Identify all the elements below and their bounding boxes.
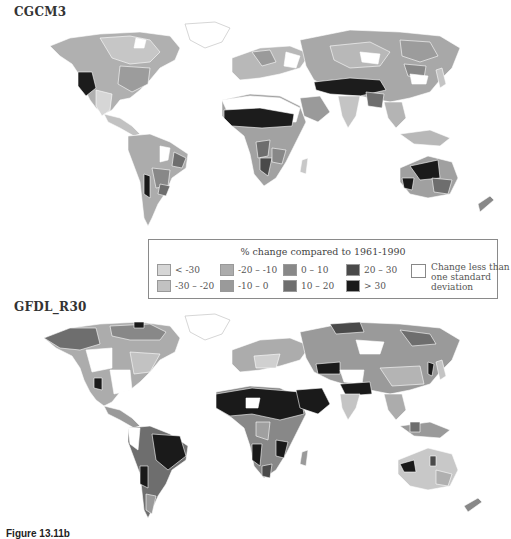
legend-label: 10 – 20 (301, 281, 334, 291)
map-title-cgcm3: CGCM3 (14, 5, 66, 19)
legend-box: % change compared to 1961-1990 < -30 -30… (148, 239, 498, 299)
legend-item-gt-30: > 30 (346, 280, 386, 292)
legend-item-0-10: 0 – 10 (283, 264, 328, 276)
legend-label: -30 – -20 (175, 281, 214, 291)
legend-label: -10 – 0 (238, 281, 268, 291)
legend-label: Change less than one standard deviation (431, 262, 511, 292)
legend-item-20-30: 20 – 30 (346, 264, 397, 276)
legend-title: % change compared to 1961-1990 (149, 246, 497, 257)
legend-label: 0 – 10 (301, 265, 328, 275)
legend-item-minus10-0: -10 – 0 (220, 280, 268, 292)
figure-caption: Figure 13.11b (6, 528, 70, 539)
legend-swatch (220, 280, 234, 292)
legend-swatch (157, 280, 171, 292)
world-map-cgcm3 (0, 18, 507, 233)
legend-label: 20 – 30 (364, 265, 397, 275)
legend-swatch (220, 264, 234, 276)
world-map-gfdl-r30 (0, 310, 507, 525)
legend-label: -20 – -10 (238, 265, 277, 275)
legend-item-no-significant-change: Change less than one standard deviation (411, 262, 511, 292)
legend-swatch (346, 280, 360, 292)
legend-item-minus30-minus20: -30 – -20 (157, 280, 214, 292)
legend-label: < -30 (175, 265, 200, 275)
legend-swatch (283, 280, 297, 292)
legend-swatch (346, 264, 360, 276)
legend-swatch (283, 264, 297, 276)
legend-swatch (411, 264, 426, 278)
legend-item-10-20: 10 – 20 (283, 280, 334, 292)
caption-label: Figure 13.11b (6, 528, 70, 539)
legend-item-lt-minus30: < -30 (157, 264, 200, 276)
legend-label: > 30 (364, 281, 386, 291)
legend-item-minus20-minus10: -20 – -10 (220, 264, 277, 276)
legend-swatch (157, 264, 171, 276)
